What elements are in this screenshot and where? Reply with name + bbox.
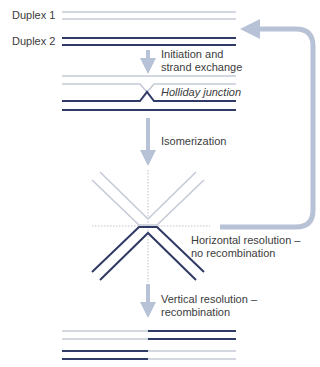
- duplex-2-strands: [62, 38, 236, 45]
- duplex-1-label: Duplex 1: [12, 9, 55, 22]
- holliday-junction-label: Holliday junction: [161, 86, 241, 99]
- vertical-resolution-label: Vertical resolution – recombination: [161, 293, 257, 318]
- recombinant-products: [62, 331, 236, 359]
- vertical-resolution-line1: Vertical resolution –: [161, 293, 257, 306]
- horizontal-resolution-line1: Horizontal resolution –: [191, 234, 300, 247]
- horizontal-resolution-line2: no recombination: [191, 247, 300, 260]
- step-initiation-line2: strand exchange: [161, 61, 242, 74]
- diagram-canvas: [0, 0, 320, 367]
- duplex-2-label: Duplex 2: [12, 35, 55, 48]
- horizontal-resolution-label: Horizontal resolution – no recombination: [191, 234, 300, 259]
- step-initiation-line1: Initiation and: [161, 48, 242, 61]
- duplex-1-strands: [62, 12, 236, 19]
- isomerization-label: Isomerization: [161, 135, 226, 148]
- step-initiation-label: Initiation and strand exchange: [161, 48, 242, 73]
- vertical-resolution-line2: recombination: [161, 306, 257, 319]
